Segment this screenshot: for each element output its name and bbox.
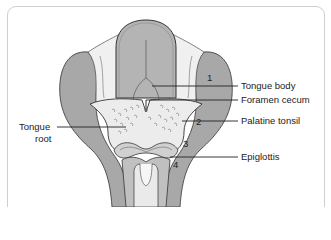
label-palatine-tonsil: Palatine tonsil: [241, 116, 300, 126]
label-tongue-root-line1: Tongue: [19, 122, 50, 132]
number-3: 3: [183, 139, 188, 149]
label-tongue-body: Tongue body: [241, 81, 295, 91]
label-foramen-cecum: Foramen cecum: [241, 95, 310, 105]
label-epiglottis: Epiglottis: [241, 152, 280, 162]
number-2: 2: [196, 117, 201, 127]
number-4: 4: [173, 160, 178, 170]
number-1: 1: [207, 73, 212, 83]
label-tongue-root-line2: root: [35, 134, 51, 144]
